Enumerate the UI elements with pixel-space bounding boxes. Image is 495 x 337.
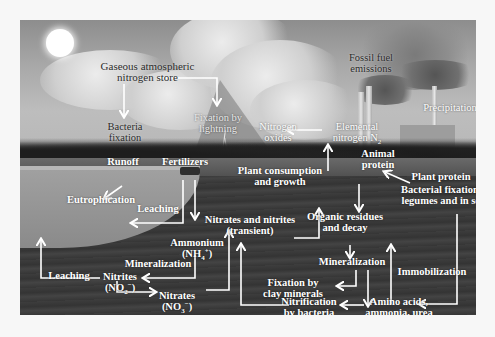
subscript: 3 — [181, 307, 185, 315]
mineralization-right-label: Mineralization — [316, 256, 388, 267]
nitrogen-oxides-label: Nitrogen oxides — [256, 121, 300, 143]
label-line: oxides — [256, 132, 300, 143]
fossil-fuel-emissions-label: Fossil fuel emissions — [343, 52, 399, 74]
label-line: and growth — [230, 176, 330, 187]
fixation-by-lightning-label: Fixation by lightning — [188, 112, 248, 134]
subscript: 2 — [378, 138, 382, 146]
nitrites-label: Nitrites (NO2−) — [100, 271, 140, 293]
amino-acids-label: Amino acids, ammonia, urea — [363, 296, 435, 315]
formula: (NO — [162, 301, 181, 312]
label-line: Bacterial fixation in — [401, 184, 476, 195]
label-line: nitrogen store — [90, 72, 205, 83]
label-line: Nitrification — [278, 296, 340, 307]
bacteria-fixation-label: Bacteria fixation — [102, 121, 148, 143]
mineralization-left-label: Mineralization — [120, 258, 196, 269]
arrow-legumes-to-amino — [420, 214, 457, 304]
label-line: legumes and in soil — [401, 195, 476, 206]
immobilization-label: Immobilization — [396, 266, 468, 277]
label-line: Organic residues — [305, 211, 385, 222]
label-line: ammonia, urea — [363, 307, 435, 315]
label-line: Animal — [357, 148, 399, 159]
label-line: lightning — [188, 123, 248, 134]
nitrogen-cycle-diagram: Gaseous atmospheric nitrogen store Bacte… — [20, 20, 476, 315]
label-line: Fixation by — [261, 277, 325, 288]
label-line: protein — [357, 159, 399, 170]
precipitation-label: Precipitation — [420, 102, 476, 113]
formula: (NO — [105, 282, 124, 293]
subscript: 2 — [124, 288, 128, 296]
formula: ) — [209, 248, 213, 259]
arrow-leaching-upper — [132, 180, 183, 223]
eutrophication-label: Eutrophication — [65, 194, 137, 205]
plant-consumption-label: Plant consumption and growth — [230, 165, 330, 187]
formula: ) — [189, 301, 193, 312]
leaching-upper-label: Leaching — [135, 203, 181, 214]
label-line: Bacteria — [102, 121, 148, 132]
label-line: emissions — [343, 63, 399, 74]
label-line: and decay — [305, 222, 385, 233]
arrow-mineralization-to-clay — [338, 270, 356, 286]
plant-protein-label: Plant protein — [405, 171, 476, 182]
nitrates-label: Nitrates (NO3−) — [155, 290, 199, 312]
label-line: Plant consumption — [230, 165, 330, 176]
label-line: Nitrates — [155, 290, 199, 301]
fertilizers-label: Fertilizers — [155, 156, 215, 167]
organic-residues-label: Organic residues and decay — [305, 211, 385, 233]
runoff-label: Runoff — [105, 156, 141, 167]
label-line: Ammonium — [165, 237, 229, 248]
label-line: fixation — [102, 132, 148, 143]
label-line: Nitrites — [100, 271, 140, 282]
ammonium-label: Ammonium (NH4+) — [165, 237, 229, 259]
nitrification-label: Nitrification by bacteria — [278, 296, 340, 315]
label-line: Fixation by — [188, 112, 248, 123]
formula: ) — [132, 282, 136, 293]
label-line: Fossil fuel — [343, 52, 399, 63]
nitrates-nitrites-transient-label: Nitrates and nitrites (transient) — [200, 214, 300, 236]
label-line: Nitrates and nitrites — [200, 214, 300, 225]
label-line: Elemental — [328, 121, 386, 132]
bacterial-fixation-legumes-label: Bacterial fixation in legumes and in soi… — [401, 184, 476, 206]
gaseous-nitrogen-store-label: Gaseous atmospheric nitrogen store — [90, 61, 205, 83]
elemental-nitrogen-label: Elemental nitrogen N2 — [328, 121, 386, 143]
label-line: Amino acids, — [363, 296, 435, 307]
label-line: nitrogen N — [333, 132, 378, 143]
leaching-lower-label: Leaching — [46, 270, 92, 281]
label-line: by bacteria — [278, 307, 340, 315]
animal-protein-label: Animal protein — [357, 148, 399, 170]
subscript: 4 — [201, 254, 205, 262]
label-line: (transient) — [200, 225, 300, 236]
label-line: Nitrogen — [256, 121, 300, 132]
